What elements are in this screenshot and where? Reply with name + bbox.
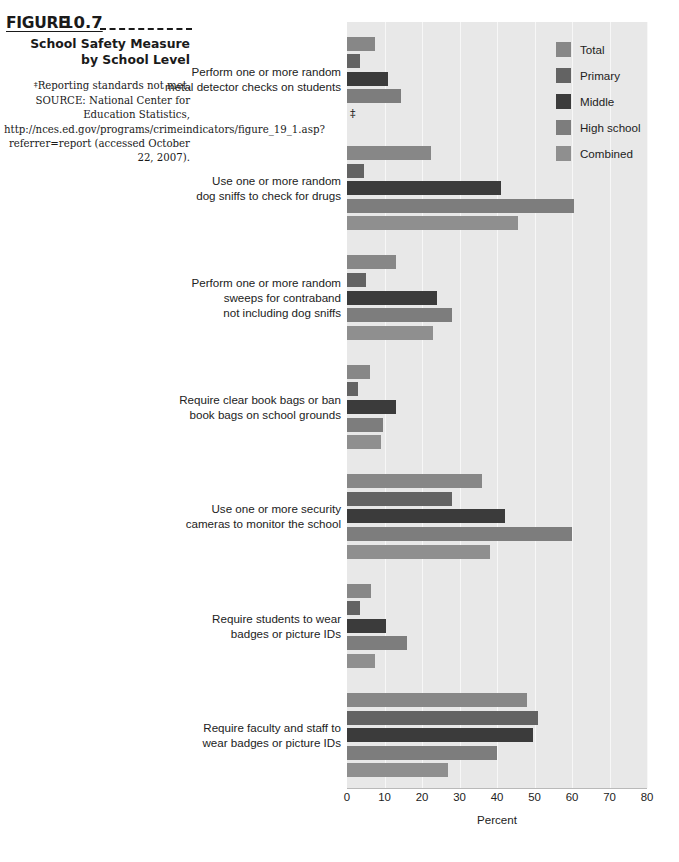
category-label-line: dog sniffs to check for drugs [101, 188, 341, 203]
category-label-line: Require clear book bags or ban [101, 392, 341, 407]
category-label-line: metal detector checks on students [101, 79, 341, 94]
bar [347, 763, 448, 777]
bar [347, 474, 482, 488]
legend-item[interactable]: Primary [556, 62, 641, 88]
category-label-line: Perform one or more random [101, 64, 341, 79]
category-label-line: Perform one or more random [101, 275, 341, 290]
bar [347, 601, 360, 615]
category-axis-labels: Perform one or more randommetal detector… [98, 0, 341, 862]
legend-swatch-icon [556, 68, 571, 83]
legend-item[interactable]: Total [556, 36, 641, 62]
bar [347, 308, 452, 322]
bar [347, 619, 386, 633]
bar [347, 37, 375, 51]
gridline [647, 22, 648, 788]
category-label: Require faculty and staff towear badges … [101, 720, 341, 750]
category-label: Perform one or more randommetal detector… [101, 64, 341, 94]
bar [347, 291, 437, 305]
x-axis-title: Percent [347, 813, 647, 826]
x-axis-line [347, 788, 647, 789]
chart-legend: TotalPrimaryMiddleHigh schoolCombined [556, 36, 641, 166]
legend-label: High school [580, 121, 641, 134]
legend-swatch-icon [556, 94, 571, 109]
figure-label: FIGURE [6, 14, 68, 32]
bar [347, 89, 401, 103]
category-label: Require students to wearbadges or pictur… [101, 611, 341, 641]
bar [347, 146, 431, 160]
bar [347, 181, 501, 195]
gridline [535, 22, 536, 788]
legend-label: Primary [580, 69, 620, 82]
category-label-line: Require faculty and staff to [101, 720, 341, 735]
bar [347, 418, 383, 432]
x-tick-label: 0 [332, 791, 362, 803]
bar [347, 636, 407, 650]
bar-missing-marker: ‡ [350, 107, 356, 121]
category-label-line: cameras to monitor the school [101, 516, 341, 531]
bar [347, 72, 388, 86]
gridline [460, 22, 461, 788]
legend-swatch-icon [556, 42, 571, 57]
bar [347, 164, 364, 178]
legend-label: Total [580, 43, 605, 56]
category-label-line: book bags on school grounds [101, 407, 341, 422]
bar [347, 54, 360, 68]
bar [347, 545, 490, 559]
gridline [497, 22, 498, 788]
bar [347, 584, 371, 598]
bar [347, 199, 574, 213]
bar [347, 492, 452, 506]
legend-label: Combined [580, 147, 633, 160]
category-label-line: badges or picture IDs [101, 626, 341, 641]
category-label-line: wear badges or picture IDs [101, 735, 341, 750]
bar [347, 216, 518, 230]
bar [347, 509, 505, 523]
category-label-line: Use one or more random [101, 173, 341, 188]
bar [347, 654, 375, 668]
bar [347, 382, 358, 396]
legend-label: Middle [580, 95, 614, 108]
x-tick-label: 80 [632, 791, 662, 803]
bar [347, 746, 497, 760]
x-tick-label: 60 [557, 791, 587, 803]
gridline [422, 22, 423, 788]
bar [347, 273, 366, 287]
category-label: Use one or more securitycameras to monit… [101, 501, 341, 531]
category-label-line: not including dog sniffs [101, 305, 341, 320]
bar [347, 527, 572, 541]
category-label-line: Use one or more security [101, 501, 341, 516]
legend-swatch-icon [556, 120, 571, 135]
x-tick-label: 70 [595, 791, 625, 803]
bar [347, 255, 396, 269]
category-label: Perform one or more randomsweeps for con… [101, 275, 341, 321]
bar [347, 711, 538, 725]
bar [347, 326, 433, 340]
bar [347, 435, 381, 449]
category-label-line: sweeps for contraband [101, 290, 341, 305]
x-tick-label: 50 [520, 791, 550, 803]
category-label-line: Require students to wear [101, 611, 341, 626]
legend-item[interactable]: Middle [556, 88, 641, 114]
bar [347, 400, 396, 414]
x-tick-label: 10 [370, 791, 400, 803]
figure-number: 10.7 [62, 13, 103, 32]
x-tick-label: 20 [407, 791, 437, 803]
category-label: Require clear book bags or banbook bags … [101, 392, 341, 422]
bar [347, 693, 527, 707]
legend-swatch-icon [556, 146, 571, 161]
x-tick-label: 40 [482, 791, 512, 803]
bar [347, 365, 370, 379]
legend-item[interactable]: Combined [556, 140, 641, 166]
legend-item[interactable]: High school [556, 114, 641, 140]
category-label: Use one or more randomdog sniffs to chec… [101, 173, 341, 203]
bar [347, 728, 533, 742]
x-tick-label: 30 [445, 791, 475, 803]
